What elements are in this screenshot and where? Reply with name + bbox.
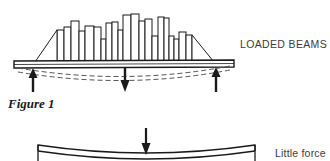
load-block: [94, 27, 101, 61]
load-block: [139, 21, 145, 61]
load-block: [131, 14, 139, 61]
loaded-beams-label: LOADED BEAMS: [240, 38, 327, 50]
load-block: [169, 36, 174, 61]
load-block: [158, 17, 164, 61]
load-block: [85, 26, 94, 61]
load-block: [164, 18, 169, 61]
load-block: [145, 19, 152, 61]
left-support-arrow: [29, 68, 38, 92]
left-load-ramp: [35, 30, 57, 62]
load-block: [57, 30, 64, 61]
load-block: [106, 23, 112, 61]
load-blocks-histogram: [57, 14, 192, 61]
load-block: [64, 27, 71, 61]
load-block: [123, 15, 131, 61]
load-block: [79, 31, 85, 61]
bottom-beam-assembly: [38, 128, 255, 161]
right-support-arrow: [212, 67, 221, 92]
bottom-center-load-arrow: [142, 128, 151, 155]
center-load-arrow: [121, 68, 130, 92]
load-block: [179, 32, 186, 61]
load-block: [71, 21, 79, 61]
load-block: [112, 22, 118, 61]
load-block: [118, 30, 123, 61]
load-block: [152, 36, 158, 61]
load-block: [186, 35, 192, 61]
figure-container: LOADED BEAMS Figure 1 Little force: [0, 0, 330, 161]
load-block: [101, 39, 106, 61]
load-block: [174, 39, 179, 61]
figure-caption: Figure 1: [8, 96, 55, 112]
loaded-beams-diagram: [0, 0, 330, 161]
top-beam-assembly: [14, 14, 234, 92]
right-load-ramp: [192, 35, 214, 62]
little-force-label: Little force: [275, 147, 326, 159]
